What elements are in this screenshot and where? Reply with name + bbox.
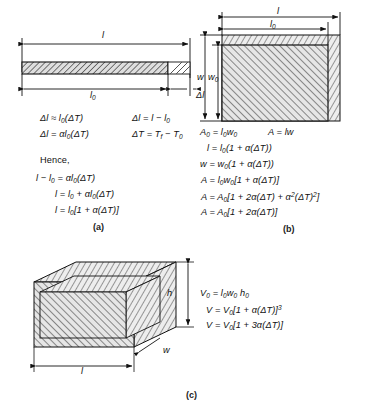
panel-b-original-width-label: w0 — [208, 72, 218, 83]
equation-c1: V0 = l0w0 h0 — [200, 288, 249, 299]
panel-c-length-label: l — [81, 366, 83, 376]
equation-a6: l − l0 = αl0(ΔT) — [36, 173, 95, 184]
equation-a1: Δl ≈ l0(ΔT) — [40, 113, 83, 124]
panel-c-height-label: h — [167, 288, 172, 298]
equation-c2: V = V0[1 + α(ΔT)]3 — [206, 304, 282, 316]
equation-b4: w = w0(1 + α(ΔT)) — [200, 159, 274, 170]
panel-c-label: (c) — [186, 390, 197, 400]
thermal-expansion-figure: l l0 Δl Δl ≈ l0(ΔT) Δl = l − l0 Δl = αl0… — [0, 0, 365, 411]
equation-a5-hence: Hence, — [40, 155, 70, 165]
equation-a3: Δl = l − l0 — [132, 113, 170, 124]
equation-b6: A = A0[1 + 2α(ΔT) + α2(ΔT)2] — [201, 191, 320, 203]
panel-a-label: (a) — [93, 222, 104, 232]
equation-c3: V = V0[1 + 3α(ΔT)] — [206, 320, 283, 331]
panel-b-width-label: w — [197, 72, 204, 82]
panel-a-length-label: l — [102, 30, 104, 40]
equation-b7: A = A0[1 + 2α(ΔT)] — [201, 207, 277, 218]
panel-b-original-length-label: l0 — [270, 19, 276, 30]
panel-c-width-label: w — [163, 345, 170, 355]
panel-c-diagram — [34, 262, 194, 372]
panel-a-delta-length-label: Δl — [196, 90, 204, 100]
equation-a8: l = l0[1 + α(ΔT)] — [55, 205, 119, 216]
panel-a-original-length-label: l0 — [90, 90, 96, 101]
equation-a2: Δl = αl0(ΔT) — [40, 129, 89, 140]
equation-b3: l = l0(1 + α(ΔT)) — [207, 143, 272, 154]
equation-b1: A0 = l0w0 — [200, 127, 237, 138]
equation-b5: A = l0w0[1 + α(ΔT)] — [201, 175, 279, 186]
panel-b-length-label: l — [277, 6, 279, 16]
equation-a7: l = l0 + αl0(ΔT) — [55, 189, 114, 200]
panel-a-diagram — [22, 38, 196, 96]
panel-b-label: (b) — [283, 224, 295, 234]
equation-b2: A = lw — [268, 127, 294, 137]
equation-a4: ΔT = Tf − T0 — [132, 129, 183, 140]
